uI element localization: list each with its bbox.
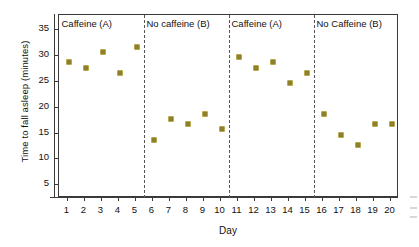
y-tick-label: 25 [38, 74, 49, 85]
panel-label: Caffeine (A) [232, 18, 283, 29]
panel-label: No caffeine (B) [147, 18, 210, 29]
y-tick-label: 10 [38, 151, 49, 162]
x-tick-mark [169, 197, 170, 201]
x-axis-title: Day [58, 225, 398, 236]
scan-artifact [410, 216, 417, 218]
data-point [219, 126, 225, 132]
y-tick: 15 [0, 133, 58, 134]
scan-artifact [410, 196, 417, 198]
x-tick-mark [84, 197, 85, 201]
y-axis-line [54, 14, 55, 197]
panel-divider [144, 15, 145, 198]
x-tick-mark [135, 197, 136, 201]
x-tick-mark [118, 197, 119, 201]
x-tick-mark [373, 197, 374, 201]
x-tick-mark [67, 197, 68, 201]
x-tick-mark [356, 197, 357, 201]
x-tick-mark [305, 197, 306, 201]
chart-figure: Time to fall asleep (minutes) 5101520253… [0, 0, 419, 247]
data-point [236, 54, 242, 60]
data-point [100, 49, 106, 55]
x-tick-mark [203, 197, 204, 201]
data-point [83, 65, 89, 71]
x-tick-mark [390, 197, 391, 201]
data-point [117, 70, 123, 76]
panel-divider [314, 15, 315, 198]
y-tick: 10 [0, 158, 58, 159]
scan-artifact [410, 207, 417, 209]
plot-area: Caffeine (A)No caffeine (B)Caffeine (A)N… [58, 14, 398, 197]
data-point [185, 121, 191, 127]
x-tick-mark [254, 197, 255, 201]
x-tick-mark [152, 197, 153, 201]
data-point [270, 59, 276, 65]
data-point [287, 80, 293, 86]
x-tick-mark [288, 197, 289, 201]
y-tick: 30 [0, 55, 58, 56]
x-axis-line [50, 197, 398, 198]
panel-label: Caffeine (A) [62, 18, 113, 29]
data-point [372, 121, 378, 127]
data-point [355, 142, 361, 148]
data-point [389, 121, 395, 127]
x-tick-mark [237, 197, 238, 201]
data-point [304, 70, 310, 76]
y-axis-title: Time to fall asleep (minutes) [19, 12, 30, 192]
x-tick-mark [271, 197, 272, 201]
x-tick-label: 20 [380, 204, 400, 215]
data-point [168, 116, 174, 122]
y-tick-label: 15 [38, 126, 49, 137]
data-point [338, 132, 344, 138]
x-tick-mark [186, 197, 187, 201]
y-tick-label: 35 [38, 22, 49, 33]
y-tick: 25 [0, 81, 58, 82]
x-tick-mark [322, 197, 323, 201]
panel-divider [229, 15, 230, 198]
data-point [321, 111, 327, 117]
data-point [66, 59, 72, 65]
y-tick: 20 [0, 107, 58, 108]
x-tick-mark [101, 197, 102, 201]
data-point [202, 111, 208, 117]
y-tick: 5 [0, 184, 58, 185]
y-tick-label: 20 [38, 100, 49, 111]
x-tick-mark [339, 197, 340, 201]
panel-label: No Caffeine (B) [317, 18, 382, 29]
x-tick-mark [220, 197, 221, 201]
data-point [151, 137, 157, 143]
y-tick-label: 30 [38, 48, 49, 59]
data-point [134, 44, 140, 50]
y-tick-label: 5 [44, 177, 49, 188]
data-point [253, 65, 259, 71]
y-tick: 35 [0, 29, 58, 30]
